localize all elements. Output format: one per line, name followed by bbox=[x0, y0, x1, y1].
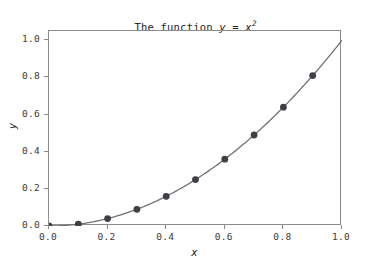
data-point-marker bbox=[163, 193, 170, 200]
data-curve bbox=[49, 40, 342, 226]
x-tick-label: 1.0 bbox=[321, 231, 361, 242]
data-point-marker bbox=[221, 156, 228, 163]
x-tick-mark bbox=[282, 225, 283, 229]
x-tick-mark bbox=[165, 225, 166, 229]
plot-area bbox=[48, 30, 341, 225]
y-tick-label: 0.4 bbox=[0, 145, 40, 156]
y-tick-mark bbox=[44, 188, 48, 189]
chart-figure: The function y = x2 0.00.20.40.60.81.0 0… bbox=[0, 0, 365, 269]
y-tick-mark bbox=[44, 39, 48, 40]
x-axis-label: x bbox=[48, 246, 341, 258]
series-layer bbox=[49, 40, 342, 226]
y-tick-label: 0.2 bbox=[0, 182, 40, 193]
x-tick-mark bbox=[341, 225, 342, 229]
chart-title-exponent: 2 bbox=[252, 19, 257, 28]
data-point-marker bbox=[104, 215, 111, 222]
data-point-marker bbox=[309, 72, 316, 79]
plot-canvas bbox=[49, 31, 342, 226]
marker-layer bbox=[49, 72, 316, 226]
data-point-marker bbox=[134, 206, 141, 213]
x-tick-mark bbox=[107, 225, 108, 229]
y-tick-mark bbox=[44, 114, 48, 115]
x-tick-label: 0.4 bbox=[145, 231, 185, 242]
x-tick-label: 0.8 bbox=[262, 231, 302, 242]
x-tick-mark bbox=[224, 225, 225, 229]
y-tick-mark bbox=[44, 151, 48, 152]
data-point-marker bbox=[251, 132, 258, 139]
y-tick-label: 1.0 bbox=[0, 33, 40, 44]
y-tick-label: 0.0 bbox=[0, 219, 40, 230]
x-tick-label: 0.6 bbox=[204, 231, 244, 242]
data-point-marker bbox=[75, 221, 82, 226]
y-tick-label: 0.8 bbox=[0, 70, 40, 81]
x-tick-label: 0.2 bbox=[87, 231, 127, 242]
x-tick-label: 0.0 bbox=[28, 231, 68, 242]
y-tick-mark bbox=[44, 225, 48, 226]
y-axis-label: y bbox=[6, 106, 18, 146]
data-point-marker bbox=[49, 223, 52, 226]
y-tick-mark bbox=[44, 76, 48, 77]
data-point-marker bbox=[192, 176, 199, 183]
data-point-marker bbox=[280, 104, 287, 111]
x-tick-mark bbox=[48, 225, 49, 229]
